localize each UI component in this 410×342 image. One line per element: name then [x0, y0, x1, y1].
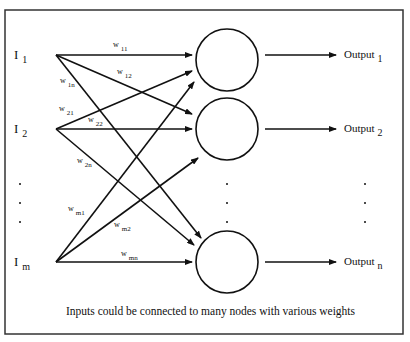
neuron-node-N1 [196, 29, 258, 91]
diagram-caption: Inputs could be connected to many nodes … [66, 305, 356, 318]
ellipsis-dot [226, 202, 228, 204]
ellipsis-dot [19, 221, 21, 223]
neural-network-diagram: w11w12w1nw21w22w2nwm1wm2wmn I1I2Im Outpu… [0, 0, 410, 342]
ellipsis-dot [19, 183, 21, 185]
ellipsis-dot [364, 183, 366, 185]
neuron-node-N2 [196, 98, 258, 160]
ellipsis-dot [364, 221, 366, 223]
ellipsis-dot [226, 183, 228, 185]
ellipsis-dot [226, 221, 228, 223]
neuron-node-Nn [196, 231, 258, 293]
ellipsis-dot [19, 202, 21, 204]
ellipsis-dot [364, 202, 366, 204]
